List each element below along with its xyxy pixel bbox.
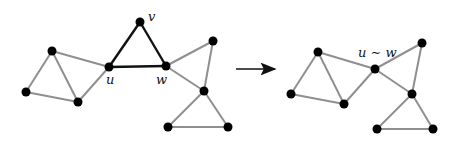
node-f: [164, 123, 173, 132]
right-graph: u ∼ w: [287, 39, 438, 134]
label-v: v: [148, 9, 156, 24]
node-e: [408, 90, 417, 99]
node-u: [105, 63, 114, 72]
node-a: [314, 48, 323, 57]
edge-a-c: [318, 52, 344, 104]
node-c: [74, 98, 83, 107]
edge-b-c: [291, 94, 344, 104]
edge-v-w: [140, 22, 166, 66]
node-a: [48, 47, 57, 56]
node-v: [136, 18, 145, 27]
edge-a-b: [291, 52, 318, 94]
node-d: [209, 37, 218, 46]
edge-d-e: [412, 43, 422, 94]
edge-c-uw: [344, 69, 375, 104]
edge-e-g: [412, 94, 433, 129]
edge-w-d: [166, 41, 213, 66]
edge-e-f: [168, 91, 204, 127]
edge-e-f: [377, 94, 412, 129]
edge-u-w: [109, 66, 166, 67]
edge-a-b: [26, 51, 52, 92]
node-g: [429, 125, 438, 134]
node-uw: [371, 65, 380, 74]
edge-b-c: [26, 92, 78, 102]
label-w: w: [156, 72, 167, 87]
graph-contraction-diagram: v u w u ∼ w: [0, 0, 453, 142]
label-u: u: [106, 72, 114, 87]
node-b: [287, 90, 296, 99]
edge-u-v: [109, 22, 140, 67]
edge-d-e: [204, 41, 213, 91]
edge-e-g: [204, 91, 228, 127]
node-d: [418, 39, 427, 48]
node-b: [22, 88, 31, 97]
left-graph: v u w: [22, 9, 233, 132]
node-c: [340, 100, 349, 109]
node-w: [162, 62, 171, 71]
edge-c-u: [78, 67, 109, 102]
edge-a-u: [52, 51, 109, 67]
label-merged-uw: u ∼ w: [358, 45, 397, 60]
edge-a-c: [52, 51, 78, 102]
node-e: [200, 87, 209, 96]
node-f: [373, 125, 382, 134]
node-g: [224, 123, 233, 132]
edge-uw-e: [375, 69, 412, 94]
edge-w-e: [166, 66, 204, 91]
